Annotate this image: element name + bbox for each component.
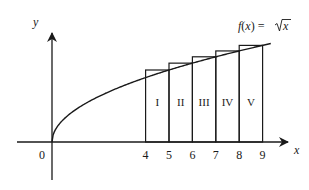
rectangle-labels: IIIIIIIVV [155,96,254,108]
rectangle-V [239,45,262,142]
y-axis-label: y [32,15,39,29]
riemann-sum-diagram: x y 0 456789 IIIIIIIVV f(x) = x [0,0,309,190]
svg-text:x: x [282,19,289,33]
svg-text:f(x) =: f(x) = [238,19,265,33]
origin-label: 0 [39,148,45,162]
function-label: f(x) = x [238,19,291,33]
x-tick-label: 5 [166,148,172,162]
sqrt-curve [52,44,271,142]
rectangle-label: V [247,96,255,108]
rectangle-label: III [199,96,210,108]
x-tick-label: 7 [213,148,219,162]
x-tick-label: 8 [236,148,242,162]
x-tick-labels: 456789 [143,148,266,162]
rectangle-label: II [177,96,185,108]
rectangle-label: IV [222,96,234,108]
x-tick-label: 6 [189,148,195,162]
x-axis-label: x [293,143,300,157]
rectangle-label: I [155,96,159,108]
x-tick-label: 9 [260,148,266,162]
x-tick-label: 4 [143,148,149,162]
